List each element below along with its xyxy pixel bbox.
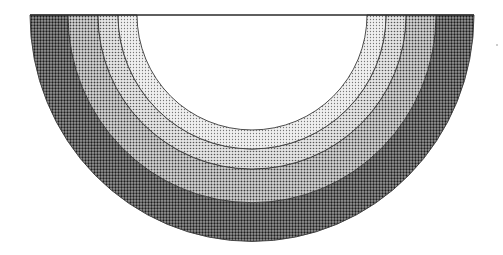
concentric-half-ring-diagram: [0, 0, 503, 255]
ring-bands: [30, 15, 474, 241]
scan-speck: [496, 44, 498, 46]
